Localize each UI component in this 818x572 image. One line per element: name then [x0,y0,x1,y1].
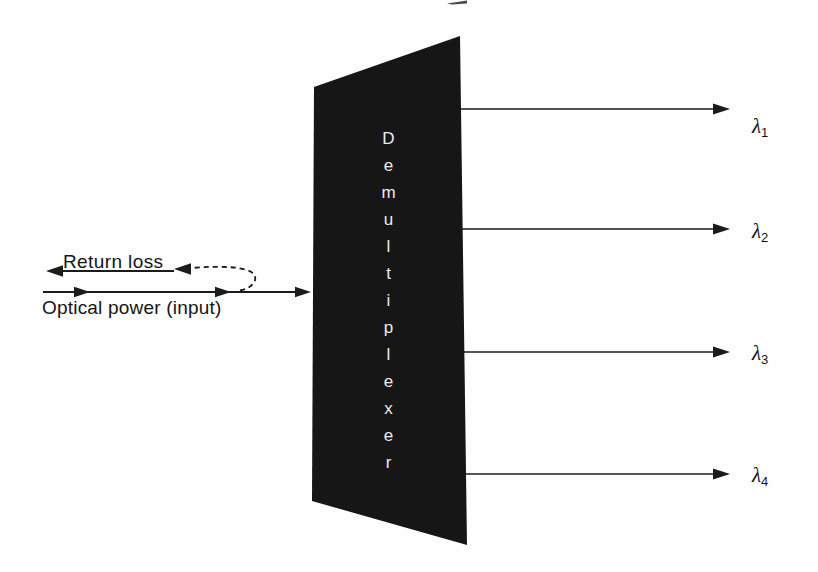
output-arrows [455,104,730,480]
return-loss-label: Return loss [63,252,164,271]
input-arrowhead-end [295,287,311,297]
lambda-subscript: 1 [761,125,768,140]
lambda-subscript: 4 [761,474,768,489]
demultiplexer-label: Demultiplexer [380,129,397,480]
output-label-lambda-3: λ3 [752,341,768,365]
output-arrowhead-3 [713,347,730,358]
output-label-lambda-2: λ2 [752,219,768,243]
input-arrowhead-mid-1 [74,287,90,297]
output-arrowhead-2 [713,224,730,235]
input-arrowhead-mid-2 [215,287,231,297]
lambda-symbol: λ [752,114,761,138]
lambda-subscript: 3 [761,352,768,367]
reflection-arrowhead [174,263,191,274]
diagram-canvas [0,0,818,572]
output-arrowhead-4 [713,469,730,480]
demultiplexer-diagram: Return loss Optical power (input) Demult… [0,0,818,572]
optical-power-input-label: Optical power (input) [42,298,222,317]
reflection-dashed-curve [192,267,255,291]
lambda-subscript: 2 [761,230,768,245]
output-label-lambda-4: λ4 [752,463,768,487]
input-arrow [43,287,311,297]
lambda-symbol: λ [752,463,761,487]
output-label-lambda-1: λ1 [752,114,768,138]
lambda-symbol: λ [752,341,761,365]
reflection-loop [174,263,255,290]
lambda-symbol: λ [752,219,761,243]
return-loss-arrowhead [46,265,63,276]
scan-artifact [447,1,467,5]
output-arrowhead-1 [713,104,730,115]
